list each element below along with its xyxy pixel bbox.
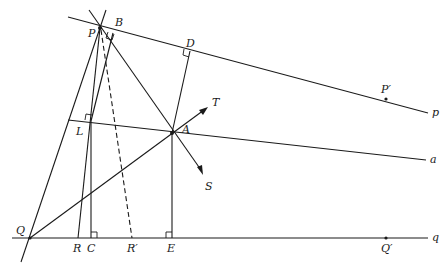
label-D: D [185, 37, 195, 50]
geometry-diagram: P B D A T S L Q R C R′ E Q′ P′ p a q [0, 0, 446, 271]
line-a [68, 120, 426, 160]
label-line-p: p [432, 106, 439, 119]
point-P [98, 26, 102, 30]
right-angle-E-icon [166, 232, 172, 238]
arrow-T-icon [199, 107, 208, 115]
label-C: C [87, 242, 96, 255]
point-A [170, 131, 174, 135]
right-angle-D-icon [183, 49, 189, 57]
label-A: A [181, 123, 190, 136]
label-E: E [166, 242, 175, 255]
label-S: S [205, 180, 213, 193]
label-line-a: a [430, 153, 437, 166]
label-P: P [87, 27, 96, 40]
label-L: L [75, 125, 83, 138]
label-R-prime: R′ [126, 242, 138, 255]
label-R: R [72, 242, 81, 255]
label-T: T [212, 96, 221, 109]
label-B: B [114, 16, 123, 29]
point-Q-prime [384, 236, 387, 239]
label-line-q: q [432, 231, 439, 244]
line-QAT [30, 110, 204, 238]
label-Q-prime: Q′ [381, 242, 393, 255]
line-DA [172, 51, 190, 133]
line-p [68, 17, 428, 113]
label-Q: Q [16, 224, 25, 237]
line-PAS [89, 10, 201, 170]
line-QP [21, 10, 106, 262]
label-P-prime: P′ [380, 83, 391, 96]
right-angle-C-icon [91, 232, 97, 238]
point-P-prime [384, 97, 387, 100]
point-Q [28, 236, 31, 239]
